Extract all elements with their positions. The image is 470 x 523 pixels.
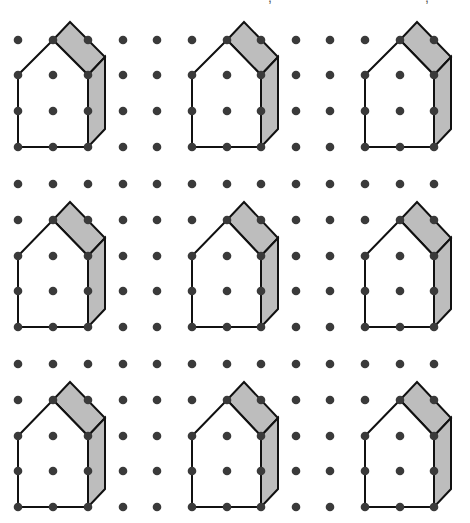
grid-dot [396, 180, 405, 189]
grid-dot [223, 287, 232, 296]
grid-dot [396, 503, 405, 512]
grid-dot [292, 467, 301, 476]
grid-dot [430, 503, 439, 512]
grid-dot [326, 287, 335, 296]
grid-dot [326, 503, 335, 512]
grid-dot [257, 287, 266, 296]
grid-dot [188, 432, 197, 441]
grid-dot [292, 107, 301, 116]
grid-dot [153, 216, 162, 225]
grid-dot [49, 216, 58, 225]
grid-dot [257, 323, 266, 332]
grid-dot [326, 143, 335, 152]
grid-dot [326, 360, 335, 369]
grid-dot [188, 143, 197, 152]
grid-dot [292, 323, 301, 332]
grid-dot [223, 71, 232, 80]
grid-dot [119, 252, 128, 261]
grid-dot [84, 467, 93, 476]
grid-dot [396, 287, 405, 296]
grid-dot [188, 503, 197, 512]
grid-dot [84, 503, 93, 512]
grid-dot [49, 180, 58, 189]
grid-dot [223, 432, 232, 441]
grid-dot [396, 467, 405, 476]
grid-dot [223, 143, 232, 152]
grid-dot [153, 360, 162, 369]
grid-dot [153, 36, 162, 45]
grid-dot [326, 252, 335, 261]
grid-dot [257, 36, 266, 45]
grid-dot [292, 396, 301, 405]
grid-dot [14, 71, 23, 80]
grid-dot [188, 287, 197, 296]
grid-dot [326, 396, 335, 405]
grid-dot [84, 36, 93, 45]
grid-dot [223, 467, 232, 476]
grid-dot [153, 143, 162, 152]
grid-dot [361, 107, 370, 116]
grid-dot [84, 396, 93, 405]
grid-dot [84, 287, 93, 296]
grid-dot [14, 143, 23, 152]
houses-layer [18, 22, 451, 507]
grid-dot [361, 216, 370, 225]
grid-dot [119, 216, 128, 225]
grid-dot [430, 360, 439, 369]
grid-dot [84, 216, 93, 225]
grid-dot [223, 36, 232, 45]
grid-dot [49, 467, 58, 476]
grid-dot [119, 287, 128, 296]
grid-dot [396, 216, 405, 225]
grid-dot [361, 36, 370, 45]
grid-dot [119, 432, 128, 441]
grid-dot [361, 467, 370, 476]
grid-dot [361, 360, 370, 369]
grid-dot [361, 287, 370, 296]
grid-dot [49, 71, 58, 80]
grid-dot [153, 323, 162, 332]
grid-dot [257, 467, 266, 476]
grid-dot [361, 323, 370, 332]
grid-dot [257, 396, 266, 405]
grid-dot [292, 432, 301, 441]
grid-dot [396, 143, 405, 152]
grid-dot [14, 287, 23, 296]
grid-dot [361, 432, 370, 441]
grid-dot [14, 503, 23, 512]
grid-dot [223, 503, 232, 512]
grid-dot [326, 107, 335, 116]
grid-dot [396, 36, 405, 45]
grid-dot [326, 71, 335, 80]
grid-dot [361, 71, 370, 80]
grid-dot [49, 143, 58, 152]
grid-dot [84, 360, 93, 369]
grid-dot [119, 396, 128, 405]
grid-dot [188, 323, 197, 332]
grid-dot [292, 71, 301, 80]
grid-dot [153, 432, 162, 441]
grid-dot [430, 216, 439, 225]
grid-dot [326, 36, 335, 45]
grid-dot [223, 107, 232, 116]
grid-dot [119, 143, 128, 152]
grid-dot [396, 107, 405, 116]
grid-dot [326, 432, 335, 441]
grid-dot [49, 107, 58, 116]
grid-dot [292, 360, 301, 369]
grid-dot [153, 287, 162, 296]
grid-dot [430, 107, 439, 116]
grid-dot [257, 71, 266, 80]
grid-dot [326, 467, 335, 476]
grid-dot [257, 503, 266, 512]
grid-dot [49, 36, 58, 45]
grid-dot [292, 216, 301, 225]
grid-dot [188, 467, 197, 476]
grid-dot [257, 252, 266, 261]
grid-dot [430, 252, 439, 261]
grid-dot [119, 360, 128, 369]
grid-dot [119, 323, 128, 332]
grid-dot [14, 360, 23, 369]
grid-dot [292, 180, 301, 189]
grid-dot [430, 287, 439, 296]
